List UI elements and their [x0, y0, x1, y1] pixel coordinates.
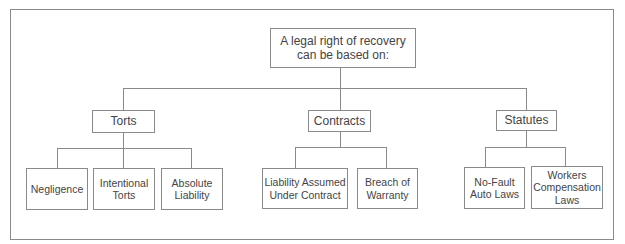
liability-assumed-node: Liability Assumed Under Contract: [262, 168, 348, 209]
connector-to-negligence: [57, 148, 58, 168]
contracts-node: Contracts: [308, 110, 371, 132]
root-node: A legal right of recovery can be based o…: [270, 28, 416, 68]
connector-torts-bar: [57, 148, 192, 149]
breach-of-warranty-node: Breach of Warranty: [357, 168, 418, 209]
connector-contracts-down: [340, 132, 341, 147]
statutes-node: Statutes: [496, 110, 557, 131]
connector-level1-bar: [123, 88, 527, 89]
connector-contracts-bar: [295, 147, 387, 148]
connector-torts-down: [123, 133, 124, 148]
connector-to-no-fault: [485, 147, 486, 167]
connector-to-liability-assumed: [295, 147, 296, 168]
connector-to-contracts: [340, 88, 341, 110]
no-fault-auto-laws-node: No-Fault Auto Laws: [464, 167, 525, 209]
connector-statutes-down: [526, 131, 527, 147]
absolute-liability-node: Absolute Liability: [161, 168, 223, 210]
connector-statutes-bar: [485, 147, 566, 148]
intentional-torts-node: Intentional Torts: [93, 168, 155, 210]
torts-node: Torts: [92, 110, 155, 133]
connector-to-workers-comp: [565, 147, 566, 167]
connector-root-down: [340, 67, 341, 88]
connector-to-absolute-liability: [191, 148, 192, 168]
connector-to-intentional-torts: [123, 148, 124, 168]
workers-compensation-laws-node: Workers Compensation Laws: [531, 166, 603, 209]
connector-to-breach-of-warranty: [386, 147, 387, 168]
connector-to-statutes: [526, 88, 527, 110]
connector-to-torts: [123, 88, 124, 110]
negligence-node: Negligence: [26, 168, 88, 210]
